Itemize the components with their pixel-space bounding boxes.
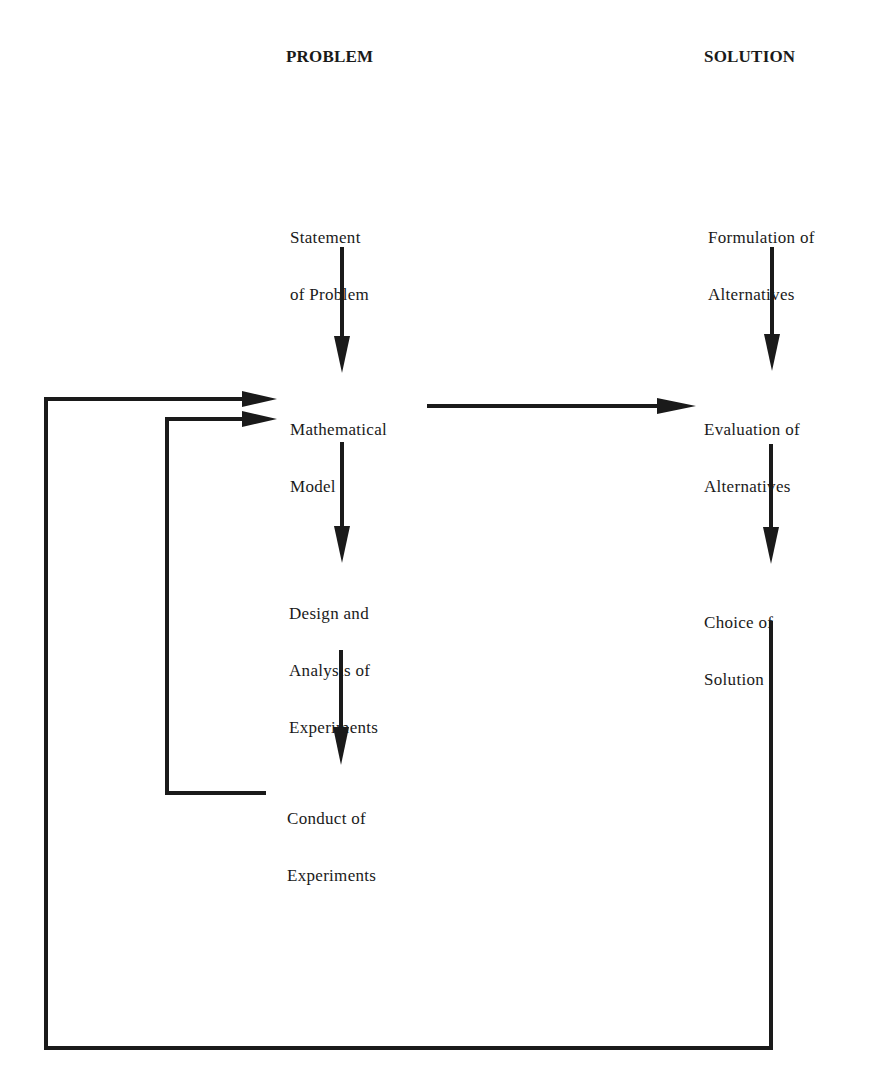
arrowhead-right-icon [657,398,696,414]
arrowhead-right-icon [242,411,277,427]
feedback-choice-to-model [46,399,771,1048]
arrowhead-down-icon [764,334,780,371]
flow-connectors [0,0,891,1090]
arrowhead-down-icon [763,527,779,564]
arrowhead-down-icon [333,727,349,765]
arrowhead-right-icon [242,391,277,407]
feedback-conduct-to-model [167,419,264,793]
arrowhead-down-icon [334,526,350,563]
arrowhead-down-icon [334,336,350,373]
